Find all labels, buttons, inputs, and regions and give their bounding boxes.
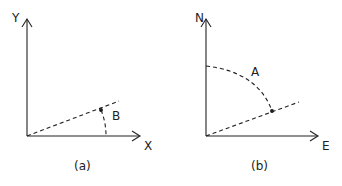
- caption-a: (a): [74, 160, 91, 172]
- panel-a-point: [100, 109, 103, 112]
- diagram-graphics: [0, 0, 342, 186]
- n-axis-label: N: [195, 12, 204, 24]
- panel-a-axes: [22, 19, 140, 141]
- panel-a-construction: [27, 101, 119, 136]
- angle-a-label: A: [251, 66, 259, 78]
- caption-b: (b): [251, 160, 268, 172]
- angle-b-label: B: [112, 110, 120, 122]
- x-axis-label: X: [144, 140, 152, 152]
- y-axis-label: Y: [12, 12, 19, 24]
- e-axis-label: E: [322, 140, 330, 152]
- diagram: Y X B (a) N E A (b): [0, 0, 342, 186]
- panel-b-axes: [201, 19, 318, 141]
- panel-b-point: [271, 110, 274, 113]
